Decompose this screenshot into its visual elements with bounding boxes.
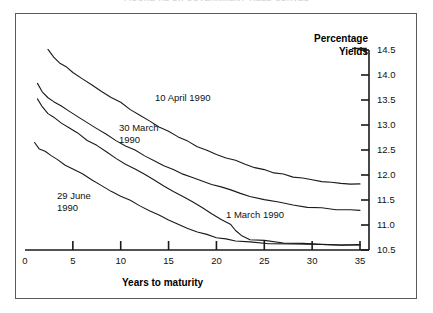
figure-root: FIGURE 7.2 UK GOVERNMENT YIELD CURVES 05… bbox=[0, 0, 433, 313]
y-tick-label-14.5: 14.5 bbox=[377, 44, 396, 55]
label-29-june-1990-line1: 29 June bbox=[57, 190, 91, 201]
y-tick-label-10.5: 10.5 bbox=[377, 244, 396, 255]
x-tick-label-25: 25 bbox=[257, 255, 271, 266]
label-10-april-1990: 10 April 1990 bbox=[155, 92, 210, 104]
y-tick-label-13.0: 13.0 bbox=[377, 119, 396, 130]
yield-curve-lines bbox=[35, 49, 360, 245]
y-axis-title-leader bbox=[352, 46, 372, 56]
y-axis-title-line1: Percentage bbox=[314, 33, 368, 44]
y-tick-label-13.5: 13.5 bbox=[377, 94, 396, 105]
x-axis-title: Years to maturity bbox=[122, 277, 203, 288]
x-tick-label-10: 10 bbox=[114, 255, 128, 266]
label-1-march-1990: 1 March 1990 bbox=[226, 209, 284, 221]
x-axis-ticks bbox=[73, 241, 360, 250]
x-tick-label-35: 35 bbox=[353, 255, 367, 266]
x-tick-label-30: 30 bbox=[305, 255, 319, 266]
x-tick-label-0: 0 bbox=[18, 255, 32, 266]
label-30-march-1990-line2: 1990 bbox=[119, 134, 140, 145]
x-tick-label-5: 5 bbox=[66, 255, 80, 266]
y-tick-label-14.0: 14.0 bbox=[377, 69, 396, 80]
label-29-june-1990-line2: 1990 bbox=[57, 202, 78, 213]
y-tick-label-11.5: 11.5 bbox=[377, 194, 395, 205]
x-tick-label-20: 20 bbox=[209, 255, 223, 266]
y-tick-label-12.5: 12.5 bbox=[377, 144, 396, 155]
label-30-march-1990: 30 March 1990 bbox=[119, 122, 159, 145]
label-29-june-1990: 29 June 1990 bbox=[57, 190, 91, 213]
y-tick-label-12.0: 12.0 bbox=[377, 169, 396, 180]
y-tick-label-11.0: 11.0 bbox=[377, 219, 395, 230]
curve-1-march-1990 bbox=[37, 99, 360, 245]
curve-10-april-1990 bbox=[48, 49, 360, 184]
label-30-march-1990-line1: 30 March bbox=[119, 122, 159, 133]
x-tick-label-15: 15 bbox=[162, 255, 176, 266]
y-axis-ticks bbox=[361, 50, 369, 250]
